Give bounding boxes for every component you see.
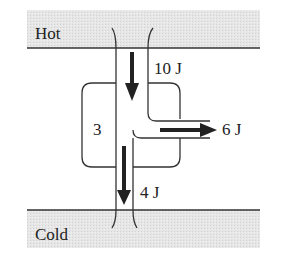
work-out-arrow [160, 123, 217, 137]
engine-label: 3 [93, 121, 102, 138]
heat-out-label: 4 J [140, 184, 159, 201]
work-out-label: 6 J [222, 121, 241, 138]
heat-out-arrow [117, 146, 131, 205]
hot-label: Hot [35, 25, 61, 42]
cold-label: Cold [35, 226, 68, 243]
heat-in-label: 10 J [154, 60, 182, 77]
hot-reservoir [27, 10, 260, 48]
heat-in-arrow [125, 52, 139, 101]
